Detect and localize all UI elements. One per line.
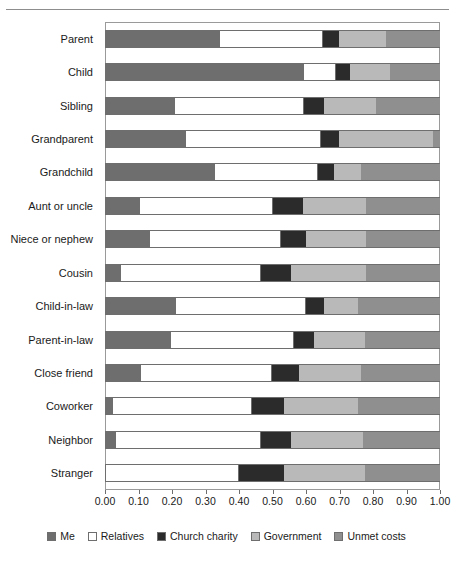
stacked-bar [105,30,440,48]
bar-segment-me [105,63,303,81]
bar-segment-relatives [115,431,261,449]
bar-row [105,297,440,315]
bar-segment-relatives [112,397,253,415]
bar-segment-unmet-costs [361,364,440,382]
bar-segment-government [284,464,364,482]
y-axis-label: Stranger [0,464,93,482]
y-axis-label: Grandchild [0,163,93,181]
stacked-bar [105,197,440,215]
bar-segment-church-charity [294,331,314,349]
chart-legend: MeRelativesChurch charityGovernmentUnmet… [0,530,453,542]
bar-segment-unmet-costs [390,63,440,81]
x-axis-tick [206,490,207,494]
bar-row [105,97,440,115]
bar-row [105,397,440,415]
stacked-bar [105,130,440,148]
legend-label: Relatives [101,530,144,542]
bar-segment-unmet-costs [376,97,440,115]
bar-segment-relatives [185,130,321,148]
bar-segment-church-charity [318,163,335,181]
bar-row [105,230,440,248]
bar-row [105,464,440,482]
y-axis-label: Child-in-law [0,297,93,315]
bar-segment-government [324,297,358,315]
bar-segment-church-charity [304,97,324,115]
x-axis-tick [105,490,106,494]
y-axis-label: Niece or nephew [0,230,93,248]
x-axis: 0.000.100.200.300.400.500.600.700.800.90… [105,490,440,516]
x-axis-tick [373,490,374,494]
legend-item-church-charity[interactable]: Church charity [157,530,238,542]
x-axis-tick [139,490,140,494]
legend-item-government[interactable]: Government [251,530,322,542]
legend-swatch-relatives-icon [88,532,97,541]
bar-segment-church-charity [272,364,299,382]
x-axis-tick [172,490,173,494]
bar-segment-unmet-costs [365,331,440,349]
bar-segment-unmet-costs [366,230,440,248]
stacked-bar [105,364,440,382]
bar-segment-relatives [105,464,239,482]
bar-segment-me [105,230,149,248]
bar-row [105,197,440,215]
bar-row [105,163,440,181]
bar-segment-government [306,230,366,248]
bar-segment-government [339,130,433,148]
bar-segment-church-charity [281,230,306,248]
y-axis-label: Coworker [0,397,93,415]
bar-segment-me [105,364,140,382]
y-axis-label: Close friend [0,364,93,382]
bar-segment-church-charity [323,30,340,48]
bar-segment-relatives [303,63,337,81]
stacked-bar [105,63,440,81]
stacked-bar [105,297,440,315]
bar-row [105,63,440,81]
legend-swatch-me-icon [47,532,56,541]
bar-segment-government [314,331,364,349]
legend-swatch-unmet-costs-icon [334,532,343,541]
bar-row [105,431,440,449]
x-axis-tick [440,490,441,494]
x-axis-tick [340,490,341,494]
bar-segment-me [105,397,112,415]
bar-segment-government [350,63,390,81]
bar-segment-government [303,197,367,215]
bar-segment-unmet-costs [386,30,440,48]
legend-label: Church charity [170,530,238,542]
x-axis-tick [273,490,274,494]
y-axis-label: Grandparent [0,130,93,148]
bar-segment-me [105,97,174,115]
legend-item-unmet-costs[interactable]: Unmet costs [334,530,405,542]
bar-segment-me [105,30,219,48]
bar-segment-government [291,431,363,449]
bar-segment-unmet-costs [358,397,440,415]
bar-segment-me [105,431,115,449]
bar-segment-unmet-costs [361,163,440,181]
legend-item-relatives[interactable]: Relatives [88,530,144,542]
bar-segment-unmet-costs [365,464,440,482]
legend-item-me[interactable]: Me [47,530,75,542]
stacked-bar [105,331,440,349]
bar-segment-church-charity [336,63,349,81]
bar-segment-government [324,97,376,115]
bar-segment-government [339,30,386,48]
bar-segment-unmet-costs [363,431,440,449]
bar-segment-me [105,297,175,315]
bar-segment-relatives [174,97,305,115]
bar-segment-relatives [140,364,272,382]
y-axis-label: Aunt or uncle [0,197,93,215]
bar-segment-me [105,264,120,282]
bar-segment-church-charity [252,397,284,415]
legend-label: Me [60,530,75,542]
bar-segment-church-charity [239,464,284,482]
bar-segment-relatives [120,264,261,282]
bar-segment-unmet-costs [433,130,440,148]
x-axis-tick [306,490,307,494]
bar-segment-unmet-costs [358,297,440,315]
bar-segment-me [105,163,214,181]
legend-label: Government [264,530,322,542]
bar-row [105,30,440,48]
bar-row [105,130,440,148]
bar-segment-relatives [170,331,294,349]
bar-segment-relatives [219,30,323,48]
